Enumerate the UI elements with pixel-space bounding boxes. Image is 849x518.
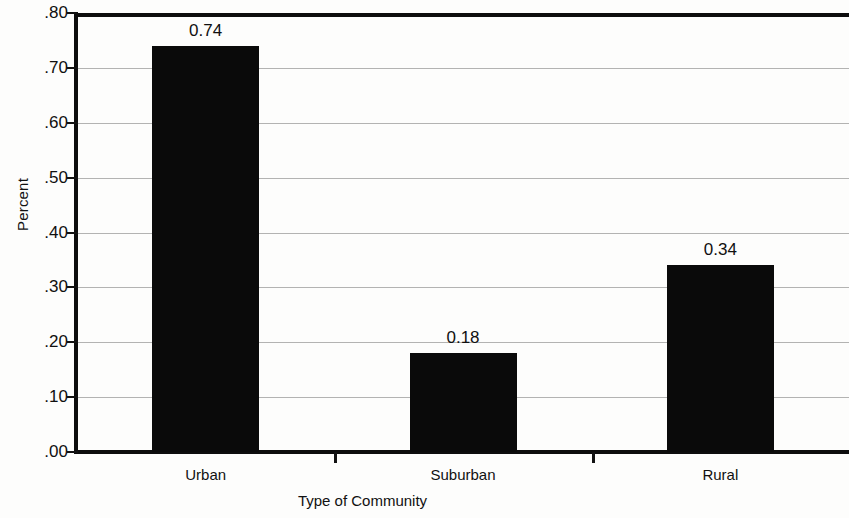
y-tick-label: .80: [20, 4, 68, 21]
bar: [410, 353, 517, 452]
y-tick-label: .00: [20, 443, 68, 460]
y-tick-mark: [67, 12, 78, 14]
y-tick-label: .60: [20, 114, 68, 131]
y-tick-mark: [67, 67, 78, 69]
y-tick-label: .30: [20, 278, 68, 295]
x-category-label: Urban: [126, 466, 286, 483]
y-tick-mark: [67, 286, 78, 288]
x-tick-mark: [334, 452, 337, 463]
y-tick-label: .50: [20, 169, 68, 186]
y-tick-label: .40: [20, 224, 68, 241]
bar-value-label: 0.34: [637, 241, 804, 258]
bar: [152, 46, 259, 452]
bar-chart: Percent .80.70.60.50.40.30.20.10.00 0.74…: [0, 0, 849, 518]
y-tick-label: .70: [20, 59, 68, 76]
y-tick-mark: [67, 396, 78, 398]
y-tick-mark: [67, 122, 78, 124]
y-tick-mark: [67, 232, 78, 234]
y-tick-label: .10: [20, 388, 68, 405]
bar-value-label: 0.18: [380, 329, 547, 346]
y-tick-mark: [67, 451, 78, 453]
y-tick-mark: [67, 341, 78, 343]
x-category-label: Rural: [640, 466, 800, 483]
x-tick-mark: [592, 452, 595, 463]
x-axis-title: Type of Community: [0, 492, 787, 509]
bar-value-label: 0.74: [122, 22, 289, 39]
x-category-label: Suburban: [383, 466, 543, 483]
y-axis-tick-labels: .80.70.60.50.40.30.20.10.00: [10, 0, 68, 518]
y-axis-line: [74, 13, 78, 454]
plot-area: 0.740.180.34: [77, 13, 849, 452]
plot-top-border: [77, 13, 849, 17]
y-tick-label: .20: [20, 333, 68, 350]
bar: [667, 265, 774, 452]
y-tick-mark: [67, 177, 78, 179]
